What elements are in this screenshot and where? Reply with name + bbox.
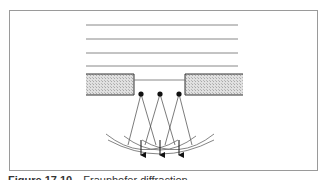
- barrier: [86, 74, 243, 95]
- rays: [128, 94, 192, 145]
- point-source: [176, 91, 181, 96]
- diffraction-diagram: [0, 0, 325, 180]
- point-source: [157, 91, 162, 96]
- caption-title: Fraunhofer diffraction: [83, 174, 187, 180]
- wavelet-arc: [142, 134, 214, 150]
- point-sources: [138, 91, 181, 96]
- figure-caption: Figure 17.10 Fraunhofer diffraction: [8, 174, 188, 180]
- point-source: [138, 91, 143, 96]
- right-plate: [185, 74, 243, 95]
- incident-wavefronts: [86, 25, 238, 66]
- caption-number: Figure 17.10: [8, 174, 72, 180]
- envelope-arc: [108, 140, 214, 154]
- left-plate: [86, 74, 134, 95]
